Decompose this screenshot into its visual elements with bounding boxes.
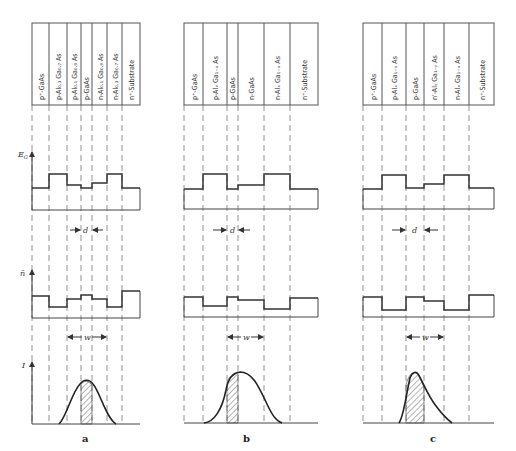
bandgap-profile-b bbox=[184, 174, 318, 189]
layer-label: n⁺-Substrate bbox=[301, 60, 309, 100]
active-thickness-d: d bbox=[83, 226, 88, 235]
layer-label: n-Alₓ Ga₁₋ₓ As bbox=[274, 56, 282, 100]
layer-label: p-Alₓ Ga₁₋ₓ As bbox=[212, 56, 220, 100]
layer-label: n⁺-Substrate bbox=[479, 60, 487, 100]
waveguide-width-w: w bbox=[243, 333, 250, 342]
layer-label: p-GaAs bbox=[83, 77, 91, 100]
layer-label: n-Al₀.₁ Ga₀.₉ As bbox=[97, 53, 105, 100]
layer-table-c bbox=[363, 23, 494, 105]
index-profile-b bbox=[184, 297, 318, 309]
index-axis-label: n̄ bbox=[20, 269, 25, 278]
layer-label: n-Alₓ Ga₁₋ₓ As bbox=[454, 56, 462, 100]
waveguide-width-w: w bbox=[422, 333, 429, 342]
energy-axis-label: EG bbox=[17, 150, 28, 160]
layer-label: p⁺-GaAs bbox=[38, 74, 46, 100]
index-profile-a bbox=[32, 291, 140, 307]
layer-label: n-GaAs bbox=[248, 77, 256, 100]
bandgap-profile-a bbox=[32, 174, 140, 188]
layer-label: p-Alₓ Ga₁₋ₓ As bbox=[391, 56, 399, 100]
layer-label: p⁺-GaAs bbox=[191, 74, 199, 100]
layer-label: p-Al₀.₁ Ga₀.₉ As bbox=[71, 53, 79, 100]
intensity-axis-label: I bbox=[21, 361, 26, 370]
heterostructure-diagram: p⁺-GaAs p-Al₀.₃ Ga₀.₇ As p-Al₀.₁ Ga₀.₉ A… bbox=[0, 0, 516, 451]
panel-caption-a: a bbox=[82, 433, 89, 444]
bandgap-profile-c bbox=[363, 175, 494, 189]
panel-b: p⁺-GaAs p-Alₓ Ga₁₋ₓ As p-GaAs n-GaAs n-A… bbox=[184, 23, 318, 444]
waveguide-width-w: w bbox=[84, 333, 91, 342]
mode-intensity-b bbox=[204, 372, 282, 423]
active-thickness-d: d bbox=[230, 226, 235, 235]
panel-caption-c: c bbox=[430, 433, 436, 444]
panel-a: p⁺-GaAs p-Al₀.₃ Ga₀.₇ As p-Al₀.₁ Ga₀.₉ A… bbox=[17, 23, 140, 444]
layer-label: p⁺-GaAs bbox=[370, 74, 378, 100]
panel-caption-b: b bbox=[243, 433, 250, 444]
layer-label: n'-Alᵧ Ga₁₋ᵧ As bbox=[431, 55, 439, 100]
index-profile-c bbox=[363, 295, 494, 310]
layer-label: p-Al₀.₃ Ga₀.₇ As bbox=[55, 53, 63, 100]
layer-label: p-GaAs bbox=[412, 77, 420, 100]
layer-label: n-Al₀.₃ Ga₀.₇ As bbox=[112, 53, 120, 100]
panel-c: p⁺-GaAs p-Alₓ Ga₁₋ₓ As p-GaAs n'-Alᵧ Ga₁… bbox=[363, 23, 494, 444]
layer-label: n⁺-Substrate bbox=[128, 60, 136, 100]
layer-label: p-GaAs bbox=[229, 77, 237, 100]
active-thickness-d: d bbox=[412, 226, 417, 235]
